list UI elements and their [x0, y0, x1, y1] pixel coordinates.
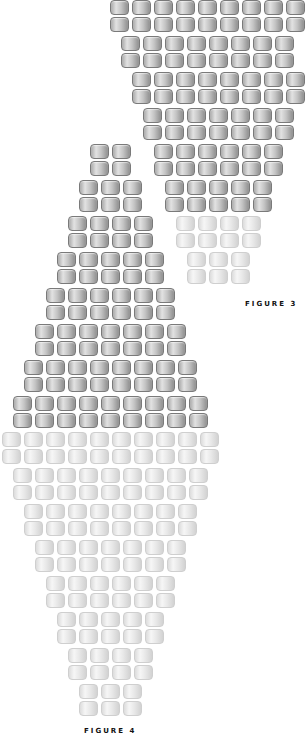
bead-dark — [145, 413, 164, 428]
bead-light — [123, 629, 142, 644]
bead-light — [134, 665, 153, 680]
bead-light — [156, 504, 175, 519]
bead-light — [178, 504, 197, 519]
bead-light — [101, 701, 120, 716]
bead-dark — [90, 305, 109, 320]
bead-light — [68, 593, 87, 608]
bead-dark — [156, 305, 175, 320]
bead-light — [156, 432, 175, 447]
bead-dark — [24, 377, 43, 392]
bead-light — [178, 521, 197, 536]
bead-light — [123, 701, 142, 716]
bead-dark — [79, 252, 98, 267]
bead-dark — [57, 324, 76, 339]
bead-light — [145, 629, 164, 644]
bead-dark — [112, 161, 131, 176]
bead-light — [46, 521, 65, 536]
bead-light — [145, 468, 164, 483]
bead-dark — [79, 341, 98, 356]
bead-light — [101, 629, 120, 644]
bead-dark — [189, 413, 208, 428]
bead-light — [145, 557, 164, 572]
bead-dark — [101, 413, 120, 428]
bead-dark — [167, 413, 186, 428]
bead-dark — [156, 377, 175, 392]
bead-light — [167, 485, 186, 500]
bead-light — [90, 576, 109, 591]
bead-light — [145, 612, 164, 627]
bead-dark — [90, 161, 109, 176]
figure-4-caption: FIGURE 4 — [84, 727, 136, 735]
bead-dark — [134, 288, 153, 303]
bead-dark — [123, 324, 142, 339]
bead-light — [46, 449, 65, 464]
bead-dark — [79, 396, 98, 411]
bead-light — [24, 432, 43, 447]
bead-dark — [156, 288, 175, 303]
bead-dark — [145, 341, 164, 356]
bead-dark — [57, 252, 76, 267]
bead-dark — [68, 288, 87, 303]
bead-dark — [68, 360, 87, 375]
bead-dark — [189, 396, 208, 411]
bead-dark — [35, 341, 54, 356]
bead-dark — [57, 396, 76, 411]
bead-dark — [24, 360, 43, 375]
bead-dark — [68, 233, 87, 248]
bead-dark — [123, 413, 142, 428]
bead-light — [156, 576, 175, 591]
bead-light — [79, 557, 98, 572]
bead-light — [79, 540, 98, 555]
bead-dark — [57, 413, 76, 428]
bead-dark — [112, 216, 131, 231]
bead-dark — [112, 377, 131, 392]
bead-light — [46, 593, 65, 608]
bead-dark — [90, 360, 109, 375]
bead-dark — [167, 396, 186, 411]
bead-light — [134, 432, 153, 447]
bead-dark — [13, 396, 32, 411]
bead-light — [112, 593, 131, 608]
bead-dark — [134, 360, 153, 375]
bead-light — [79, 629, 98, 644]
bead-dark — [68, 216, 87, 231]
bead-light — [57, 485, 76, 500]
bead-dark — [123, 252, 142, 267]
bead-dark — [79, 413, 98, 428]
bead-light — [189, 485, 208, 500]
bead-light — [68, 432, 87, 447]
bead-dark — [156, 360, 175, 375]
bead-light — [68, 665, 87, 680]
bead-light — [200, 449, 219, 464]
bead-light — [112, 648, 131, 663]
bead-dark — [68, 377, 87, 392]
bead-dark — [35, 324, 54, 339]
bead-light — [134, 576, 153, 591]
bead-light — [112, 449, 131, 464]
bead-light — [101, 540, 120, 555]
bead-light — [112, 432, 131, 447]
bead-dark — [79, 269, 98, 284]
bead-light — [101, 485, 120, 500]
bead-dark — [123, 341, 142, 356]
bead-dark — [112, 144, 131, 159]
bead-light — [156, 449, 175, 464]
bead-light — [90, 665, 109, 680]
bead-light — [57, 629, 76, 644]
bead-dark — [134, 233, 153, 248]
bead-dark — [90, 288, 109, 303]
bead-dark — [46, 288, 65, 303]
bead-light — [24, 521, 43, 536]
bead-dark — [123, 180, 142, 195]
bead-dark — [90, 144, 109, 159]
bead-dark — [90, 233, 109, 248]
bead-light — [156, 593, 175, 608]
bead-light — [24, 504, 43, 519]
bead-light — [90, 593, 109, 608]
bead-dark — [112, 233, 131, 248]
bead-dark — [101, 269, 120, 284]
bead-light — [134, 521, 153, 536]
bead-dark — [123, 269, 142, 284]
bead-light — [90, 521, 109, 536]
